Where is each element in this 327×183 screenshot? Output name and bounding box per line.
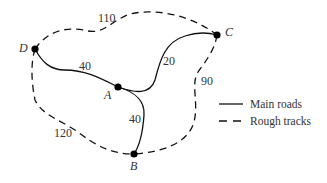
legend-label-rough-tracks: Rough tracks — [250, 115, 312, 128]
weight-D-C: 110 — [98, 11, 116, 25]
node-label-A: A — [103, 88, 112, 102]
node-A — [114, 83, 121, 90]
weight-D-B: 120 — [54, 126, 72, 140]
road-network-diagram: A B C D 40 20 40 110 90 120 Main roads R… — [0, 0, 327, 183]
node-D — [31, 45, 38, 52]
node-C — [213, 31, 220, 38]
weight-D-A: 40 — [79, 59, 91, 73]
legend-label-main-roads: Main roads — [250, 98, 303, 110]
weight-A-B: 40 — [129, 112, 141, 126]
weight-C-B: 90 — [201, 74, 213, 88]
edge-D-A-main — [35, 49, 118, 87]
node-label-B: B — [130, 159, 138, 173]
legend: Main roads Rough tracks — [219, 98, 312, 128]
weight-A-C: 20 — [163, 54, 175, 68]
edge-D-C-rough — [35, 12, 217, 49]
node-label-C: C — [225, 25, 234, 39]
node-label-D: D — [18, 41, 28, 55]
edge-C-B-rough — [134, 35, 217, 154]
node-B — [130, 150, 137, 157]
